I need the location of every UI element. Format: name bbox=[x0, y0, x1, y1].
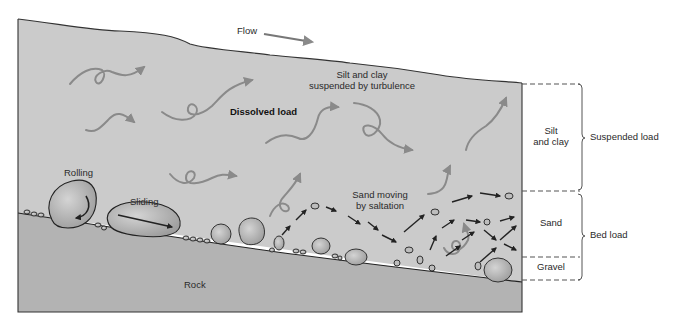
suspended-load-label: Suspended load bbox=[590, 132, 659, 143]
stream-load-diagram bbox=[0, 0, 682, 325]
silt-clay-turbulence-label: Silt and clay suspended by turbulence bbox=[292, 70, 432, 92]
layer-silt-clay-line2: and clay bbox=[524, 137, 578, 148]
flow-label: Flow bbox=[237, 26, 257, 37]
saltation-label: Sand moving by saltation bbox=[340, 190, 420, 212]
rolling-label: Rolling bbox=[64, 168, 93, 179]
dissolved-load-label: Dissolved load bbox=[230, 107, 297, 118]
layer-sand-label: Sand bbox=[524, 218, 578, 229]
layer-gravel-label: Gravel bbox=[524, 262, 578, 273]
bed-load-label: Bed load bbox=[590, 230, 628, 241]
rock-label: Rock bbox=[184, 280, 206, 291]
saltation-line2: by saltation bbox=[340, 201, 420, 212]
layer-silt-clay-label: Silt and clay bbox=[524, 126, 578, 148]
layer-dividers bbox=[522, 84, 580, 280]
bed-load-bracket bbox=[578, 194, 585, 280]
sliding-label: Sliding bbox=[130, 197, 159, 208]
suspended-load-bracket bbox=[578, 84, 585, 190]
silt-clay-turbulence-line2: suspended by turbulence bbox=[292, 81, 432, 92]
flow-arrow-icon bbox=[264, 34, 312, 42]
